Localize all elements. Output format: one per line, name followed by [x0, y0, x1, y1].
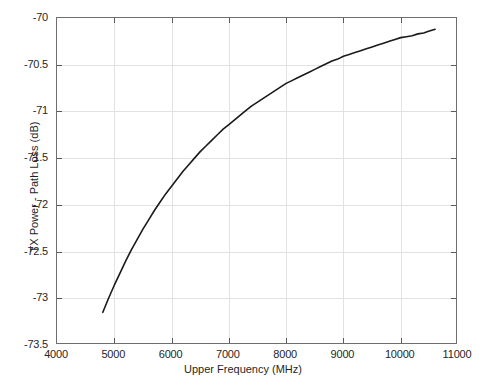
plot-area: [56, 17, 457, 344]
x-tick-label: 11000: [443, 348, 472, 360]
y-tick-label: -71.5: [0, 151, 48, 163]
figure-container: 4000500060007000800090001000011000 -73.5…: [0, 0, 486, 388]
x-tick-label: 9000: [331, 348, 355, 360]
data-curve: [57, 18, 458, 345]
y-tick-label: -71: [0, 104, 48, 116]
x-tick-label: 10000: [385, 348, 415, 360]
x-tick-label: 8000: [273, 348, 297, 360]
y-tick-label: -72: [0, 198, 48, 210]
y-tick-label: -73.5: [0, 338, 48, 350]
y-tick-label: -70: [0, 11, 48, 23]
y-tick-label: -72.5: [0, 245, 48, 257]
y-tick-label: -70.5: [0, 58, 48, 70]
series-path-tx-power-path-loss: [103, 29, 435, 312]
x-tick-label: 7000: [216, 348, 240, 360]
x-axis-title: Upper Frequency (MHz): [0, 363, 486, 375]
x-tick-label: 5000: [101, 348, 125, 360]
y-axis-title: TX Power - Path Loss (dB): [28, 67, 40, 307]
x-tick-label: 6000: [159, 348, 183, 360]
y-tick-label: -73: [0, 291, 48, 303]
